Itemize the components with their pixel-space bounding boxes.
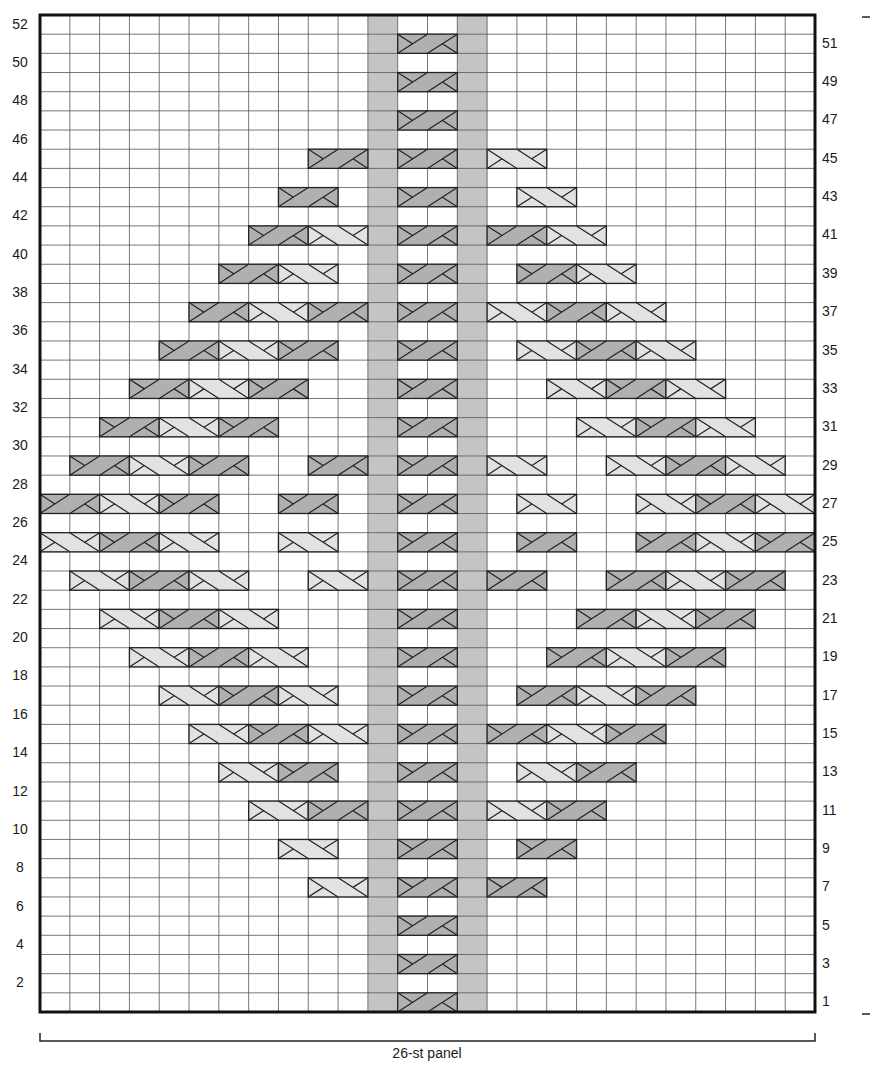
row-number-label: 41 bbox=[822, 226, 852, 242]
right-cross-cable-symbol bbox=[547, 303, 607, 322]
right-cross-cable-symbol bbox=[398, 878, 458, 897]
right-cross-cable-symbol bbox=[249, 379, 309, 398]
left-cross-cable-symbol bbox=[189, 379, 249, 398]
right-cross-cable-symbol bbox=[398, 456, 458, 475]
right-cross-cable-symbol bbox=[308, 456, 368, 475]
left-cross-cable-symbol bbox=[308, 878, 368, 897]
left-cross-cable-symbol bbox=[100, 494, 160, 513]
row-number-label: 27 bbox=[822, 495, 852, 511]
row-number-label: 5 bbox=[822, 917, 852, 933]
right-cross-cable-symbol bbox=[159, 494, 219, 513]
right-cross-cable-symbol bbox=[398, 571, 458, 590]
right-cross-cable-symbol bbox=[547, 648, 607, 667]
row-number-label: 20 bbox=[5, 629, 35, 645]
right-cross-cable-symbol bbox=[249, 226, 309, 245]
row-number-label: 19 bbox=[822, 648, 852, 664]
right-cross-cable-symbol bbox=[636, 533, 696, 552]
left-cross-cable-symbol bbox=[606, 303, 666, 322]
left-cross-cable-symbol bbox=[487, 801, 547, 820]
right-cross-cable-symbol bbox=[398, 686, 458, 705]
row-number-label: 34 bbox=[5, 361, 35, 377]
row-number-label: 10 bbox=[5, 821, 35, 837]
right-cross-cable-symbol bbox=[278, 188, 338, 207]
right-cross-cable-symbol bbox=[159, 341, 219, 360]
right-cross-cable-symbol bbox=[278, 763, 338, 782]
right-cross-cable-symbol bbox=[219, 686, 279, 705]
right-cross-cable-symbol bbox=[278, 341, 338, 360]
left-cross-cable-symbol bbox=[517, 494, 577, 513]
left-cross-cable-symbol bbox=[129, 456, 189, 475]
right-cross-cable-symbol bbox=[398, 379, 458, 398]
left-cross-cable-symbol bbox=[487, 303, 547, 322]
right-cross-cable-symbol bbox=[308, 801, 368, 820]
right-cross-cable-symbol bbox=[40, 494, 100, 513]
right-cross-cable-symbol bbox=[278, 494, 338, 513]
left-cross-cable-symbol bbox=[129, 648, 189, 667]
right-cross-cable-symbol bbox=[398, 801, 458, 820]
right-cross-cable-symbol bbox=[129, 379, 189, 398]
right-cross-cable-symbol bbox=[100, 533, 160, 552]
row-number-label: 26 bbox=[5, 514, 35, 530]
right-cross-cable-symbol bbox=[606, 724, 666, 743]
left-cross-cable-symbol bbox=[666, 379, 726, 398]
left-cross-cable-symbol bbox=[517, 188, 577, 207]
left-cross-cable-symbol bbox=[547, 226, 607, 245]
left-cross-cable-symbol bbox=[547, 724, 607, 743]
left-cross-cable-symbol bbox=[159, 686, 219, 705]
row-number-label: 31 bbox=[822, 418, 852, 434]
row-number-label: 15 bbox=[822, 725, 852, 741]
right-cross-cable-symbol bbox=[189, 648, 249, 667]
row-number-label: 28 bbox=[5, 476, 35, 492]
row-number-label: 43 bbox=[822, 188, 852, 204]
row-number-label: 24 bbox=[5, 552, 35, 568]
left-cross-cable-symbol bbox=[70, 571, 130, 590]
left-cross-cable-symbol bbox=[308, 226, 368, 245]
left-cross-cable-symbol bbox=[40, 533, 100, 552]
row-number-label: 51 bbox=[822, 35, 852, 51]
row-number-label: 35 bbox=[822, 342, 852, 358]
right-cross-cable-symbol bbox=[666, 456, 726, 475]
row-number-label: 9 bbox=[822, 840, 852, 856]
right-cross-cable-symbol bbox=[398, 648, 458, 667]
left-cross-cable-symbol bbox=[755, 494, 815, 513]
right-cross-cable-symbol bbox=[189, 303, 249, 322]
right-cross-cable-symbol bbox=[636, 686, 696, 705]
left-cross-cable-symbol bbox=[726, 456, 786, 475]
right-cross-cable-symbol bbox=[755, 533, 815, 552]
right-cross-cable-symbol bbox=[308, 149, 368, 168]
row-number-label: 14 bbox=[5, 744, 35, 760]
row-number-label: 49 bbox=[822, 73, 852, 89]
left-cross-cable-symbol bbox=[219, 763, 279, 782]
left-cross-cable-symbol bbox=[577, 418, 637, 437]
right-cross-cable-symbol bbox=[606, 571, 666, 590]
left-cross-cable-symbol bbox=[249, 801, 309, 820]
left-cross-cable-symbol bbox=[666, 571, 726, 590]
left-cross-cable-symbol bbox=[278, 839, 338, 858]
right-cross-cable-symbol bbox=[100, 418, 160, 437]
row-number-label: 33 bbox=[822, 380, 852, 396]
left-cross-cable-symbol bbox=[547, 379, 607, 398]
panel-bracket bbox=[40, 1033, 815, 1041]
right-cross-cable-symbol bbox=[398, 954, 458, 973]
right-cross-cable-symbol bbox=[666, 648, 726, 667]
right-cross-cable-symbol bbox=[249, 724, 309, 743]
left-cross-cable-symbol bbox=[278, 686, 338, 705]
row-number-label: 8 bbox=[5, 859, 35, 875]
right-cross-cable-symbol bbox=[398, 73, 458, 92]
left-cross-cable-symbol bbox=[308, 724, 368, 743]
row-number-label: 2 bbox=[5, 974, 35, 990]
right-cross-cable-symbol bbox=[308, 303, 368, 322]
right-cross-cable-symbol bbox=[696, 609, 756, 628]
right-cross-cable-symbol bbox=[726, 571, 786, 590]
right-cross-cable-symbol bbox=[517, 533, 577, 552]
right-cross-cable-symbol bbox=[577, 763, 637, 782]
right-cross-cable-symbol bbox=[517, 839, 577, 858]
row-number-label: 50 bbox=[5, 54, 35, 70]
right-cross-cable-symbol bbox=[398, 341, 458, 360]
right-cross-cable-symbol bbox=[517, 686, 577, 705]
row-number-label: 47 bbox=[822, 111, 852, 127]
row-number-label: 17 bbox=[822, 687, 852, 703]
right-cross-cable-symbol bbox=[487, 571, 547, 590]
left-cross-cable-symbol bbox=[308, 571, 368, 590]
row-number-label: 29 bbox=[822, 457, 852, 473]
